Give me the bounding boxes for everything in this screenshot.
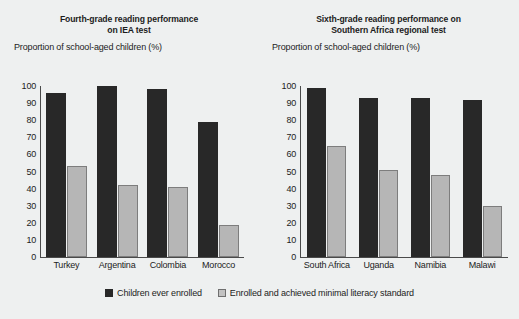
legend-swatch-dark-icon: [105, 289, 113, 297]
y-tick-0: 0: [6, 253, 36, 262]
chart-panel-sixth-grade: Sixth-grade reading performance on South…: [258, 14, 519, 284]
y-tick-30: 30: [266, 201, 296, 210]
bar-dark: [97, 86, 117, 257]
bar-groups: [301, 86, 508, 257]
bar-group: [353, 86, 405, 257]
bar-group: [143, 86, 194, 257]
y-tick-80: 80: [266, 116, 296, 125]
x-axis-labels: Turkey Argentina Colombia Morocco: [41, 260, 244, 271]
x-label: Morocco: [193, 260, 244, 271]
bar-light: [483, 206, 502, 257]
bar-light: [219, 225, 239, 257]
chart-title-line2: Southern Africa regional test: [266, 25, 511, 36]
x-axis-labels: South Africa Uganda Namibia Malawi: [301, 260, 508, 271]
bar-group: [41, 86, 92, 257]
bar-dark: [147, 89, 167, 257]
chart-title: Sixth-grade reading performance on South…: [258, 14, 519, 36]
bar-groups: [41, 86, 244, 257]
chart-title-line1: Sixth-grade reading performance on: [316, 14, 461, 24]
legend-label: Children ever enrolled: [117, 288, 202, 298]
legend-item-minimal-literacy: Enrolled and achieved minimal literacy s…: [218, 288, 414, 298]
y-axis-title: Proportion of school-aged children (%): [0, 36, 258, 53]
chart-title-line2: on IEA test: [8, 25, 250, 36]
x-label: Colombia: [143, 260, 194, 271]
plot-area: 100 90 80 70 60 50 40 30 20 10 0: [40, 86, 244, 258]
x-axis-line: [40, 257, 244, 258]
chart-title: Fourth-grade reading performance on IEA …: [0, 14, 258, 36]
y-tick-50: 50: [6, 167, 36, 176]
y-tick-60: 60: [266, 150, 296, 159]
bar-group: [193, 86, 244, 257]
x-label: South Africa: [301, 260, 353, 271]
y-tick-90: 90: [6, 99, 36, 108]
chart-title-line1: Fourth-grade reading performance: [60, 14, 198, 24]
y-tick-30: 30: [6, 201, 36, 210]
y-tick-0: 0: [266, 253, 296, 262]
bar-group: [405, 86, 457, 257]
y-tick-90: 90: [266, 99, 296, 108]
y-tick-40: 40: [266, 184, 296, 193]
x-label: Turkey: [41, 260, 92, 271]
legend-swatch-light-icon: [218, 289, 226, 297]
y-tick-60: 60: [6, 150, 36, 159]
y-tick-100: 100: [266, 82, 296, 91]
bar-light: [67, 166, 87, 257]
figure: Fourth-grade reading performance on IEA …: [0, 0, 519, 319]
y-tick-70: 70: [266, 133, 296, 142]
y-tick-20: 20: [6, 218, 36, 227]
legend-item-children-ever-enrolled: Children ever enrolled: [105, 288, 202, 298]
x-label: Malawi: [456, 260, 508, 271]
bar-light: [118, 185, 138, 257]
legend-label: Enrolled and achieved minimal literacy s…: [230, 288, 414, 298]
y-tick-100: 100: [6, 82, 36, 91]
bar-light: [431, 175, 450, 257]
y-tick-80: 80: [6, 116, 36, 125]
bar-group: [92, 86, 143, 257]
chart-panels: Fourth-grade reading performance on IEA …: [0, 14, 519, 284]
bar-light: [379, 170, 398, 257]
bar-dark: [359, 98, 378, 257]
x-axis-line: [300, 257, 508, 258]
y-axis-title: Proportion of school-aged children (%): [258, 36, 519, 53]
x-label: Namibia: [405, 260, 457, 271]
y-tick-20: 20: [266, 218, 296, 227]
x-label: Argentina: [92, 260, 143, 271]
x-label: Uganda: [353, 260, 405, 271]
plot-area: 100 90 80 70 60 50 40 30 20 10 0: [300, 86, 508, 258]
chart-panel-fourth-grade: Fourth-grade reading performance on IEA …: [0, 14, 258, 284]
bar-light: [168, 187, 188, 257]
bar-dark: [463, 100, 482, 257]
bar-dark: [307, 88, 326, 257]
y-tick-70: 70: [6, 133, 36, 142]
y-tick-50: 50: [266, 167, 296, 176]
bar-group: [301, 86, 353, 257]
y-tick-10: 10: [6, 235, 36, 244]
bar-dark: [411, 98, 430, 257]
y-tick-10: 10: [266, 235, 296, 244]
legend: Children ever enrolled Enrolled and achi…: [0, 288, 519, 298]
bar-group: [456, 86, 508, 257]
bar-dark: [46, 93, 66, 257]
bar-dark: [198, 122, 218, 257]
y-tick-40: 40: [6, 184, 36, 193]
bar-light: [327, 146, 346, 257]
